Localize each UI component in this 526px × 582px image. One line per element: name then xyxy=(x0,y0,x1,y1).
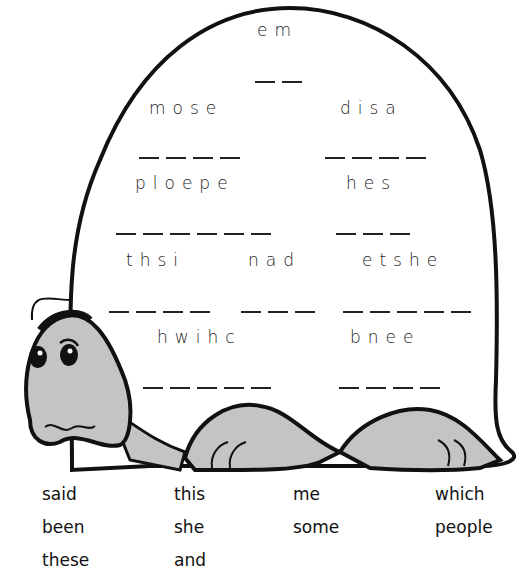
eye-right-icon xyxy=(60,344,78,366)
scrambled-word: mose xyxy=(149,100,223,117)
word-bank-item: this xyxy=(174,486,205,503)
eye-left-icon xyxy=(29,346,47,368)
scrambled-word: disa xyxy=(340,100,403,117)
word-bank-item: which xyxy=(435,486,485,503)
scrambled-word: em xyxy=(257,22,298,39)
scrambled-word: hwihc xyxy=(157,329,242,346)
scrambled-word: thsi xyxy=(126,252,185,269)
word-bank-item: and xyxy=(174,552,206,569)
word-bank-item: some xyxy=(293,519,339,536)
scrambled-word: nad xyxy=(248,252,301,269)
scrambled-word: bnee xyxy=(350,329,420,346)
word-bank-item: people xyxy=(435,519,493,536)
scrambled-word: ploepe xyxy=(135,175,235,192)
word-bank-item: me xyxy=(293,486,320,503)
turtle-shell xyxy=(70,8,514,470)
word-bank-item: these xyxy=(42,552,89,569)
word-bank-item: been xyxy=(42,519,84,536)
word-bank-item: said xyxy=(42,486,77,503)
scrambled-word: hes xyxy=(346,175,397,192)
scrambled-word: etshe xyxy=(362,252,444,269)
word-bank-item: she xyxy=(174,519,204,536)
